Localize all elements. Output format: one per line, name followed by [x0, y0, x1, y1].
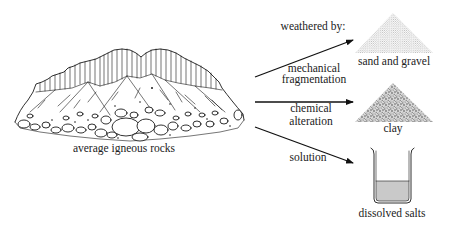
beaker-icon	[371, 148, 414, 203]
source-rock-label: average igneous rocks	[73, 142, 176, 155]
product-label-dissolved-salts: dissolved salts	[359, 207, 426, 219]
process-label-solution: solution	[289, 151, 326, 163]
product-label-sand-and-gravel: sand and gravel	[358, 55, 430, 68]
product-label-clay: clay	[383, 122, 402, 135]
clay-pile-icon	[355, 83, 433, 122]
igneous-rock-mound-illustration	[15, 49, 244, 141]
process-label-chemical: chemical	[290, 102, 332, 114]
weathered-by-header: weathered by:	[281, 20, 346, 33]
weathering-diagram: average igneous rocks weathered by: mech…	[0, 0, 452, 235]
process-label-alteration: alteration	[289, 115, 333, 127]
process-label-fragmentation: fragmentation	[282, 73, 347, 86]
sand-and-gravel-pile-icon	[355, 13, 433, 53]
